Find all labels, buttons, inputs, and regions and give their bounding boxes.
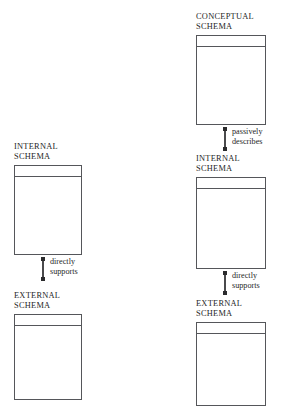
connector-cap-bottom-icon — [223, 147, 227, 151]
schema-box-header — [15, 315, 81, 326]
node-right-internal-schema: INTERNAL SCHEMA — [196, 154, 266, 269]
connector-label: directly supports — [232, 271, 260, 292]
connector-left-internal-to-external: directly supports — [42, 258, 44, 280]
schema-box-header — [197, 36, 265, 47]
schema-box-body — [197, 334, 265, 405]
node-label: INTERNAL SCHEMA — [14, 142, 82, 162]
connector-cap-top-icon — [41, 257, 45, 261]
schema-box-body — [197, 189, 265, 268]
connector-right-internal-to-external: directly supports — [224, 272, 226, 294]
schema-box — [14, 314, 82, 400]
node-left-internal-schema: INTERNAL SCHEMA — [14, 142, 82, 255]
connector-label: passively describes — [232, 127, 262, 148]
schema-box — [196, 322, 266, 406]
connector-cap-bottom-icon — [223, 291, 227, 295]
schema-box — [196, 177, 266, 269]
connector-cap-top-icon — [223, 271, 227, 275]
schema-box — [14, 165, 82, 255]
schema-box — [196, 35, 266, 125]
schema-box-body — [197, 47, 265, 124]
node-label: EXTERNAL SCHEMA — [196, 299, 266, 319]
schema-box-header — [197, 323, 265, 334]
schema-architecture-diagram: INTERNAL SCHEMA directly supports EXTERN… — [0, 0, 287, 417]
node-left-external-schema: EXTERNAL SCHEMA — [14, 291, 82, 400]
connector-cap-top-icon — [223, 127, 227, 131]
node-right-external-schema: EXTERNAL SCHEMA — [196, 299, 266, 406]
schema-box-header — [197, 178, 265, 189]
schema-box-body — [15, 326, 81, 399]
node-label: CONCEPTUAL SCHEMA — [196, 12, 266, 32]
schema-box-header — [15, 166, 81, 177]
node-label: EXTERNAL SCHEMA — [14, 291, 82, 311]
schema-box-body — [15, 177, 81, 254]
node-right-conceptual-schema: CONCEPTUAL SCHEMA — [196, 12, 266, 125]
node-label: INTERNAL SCHEMA — [196, 154, 266, 174]
connector-right-conceptual-to-internal: passively describes — [224, 128, 226, 150]
connector-cap-bottom-icon — [41, 277, 45, 281]
connector-label: directly supports — [50, 257, 78, 278]
